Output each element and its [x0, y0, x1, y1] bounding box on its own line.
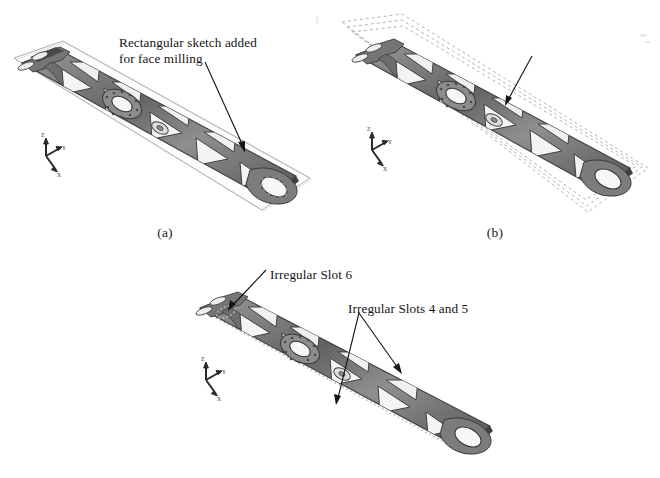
svg-text:X: X — [217, 396, 221, 402]
svg-text:Y: Y — [62, 145, 66, 151]
panel-caption-a: (a) — [0, 225, 330, 241]
coordinate-triad-b: Z Y X — [367, 126, 392, 172]
bracket-body-b — [351, 39, 633, 196]
coordinate-triad-a: Z Y X — [41, 132, 66, 178]
panel-b-drawing: Z Y X — [330, 0, 660, 250]
svg-text:Y: Y — [388, 139, 392, 145]
svg-text:X: X — [57, 172, 61, 178]
scan-speck — [316, 16, 319, 24]
panel-b: Z Y X (b) Perimeter-Open Pocket — [330, 0, 660, 250]
callout-irregular-slots-4-and-5: Irregular Slots 4 and 5 — [348, 301, 468, 317]
panel-c-drawing: Z Y X — [160, 250, 530, 478]
callout-irregular-slot-6: Irregular Slot 6 — [270, 267, 352, 283]
svg-text:Z: Z — [201, 356, 205, 362]
svg-text:Y: Y — [222, 369, 226, 375]
bracket-body — [17, 47, 299, 204]
svg-text:Z: Z — [41, 132, 45, 138]
figure-root: Z Y X (a) Rectangular sketch added for f… — [0, 0, 660, 478]
scan-speck — [640, 34, 647, 37]
svg-text:X: X — [383, 166, 387, 172]
panel-caption-b: (b) — [330, 225, 660, 241]
callout-rectangular-sketch: Rectangular sketch added for face millin… — [119, 35, 257, 66]
coordinate-triad-c: Z Y X — [201, 356, 226, 402]
svg-text:Z: Z — [367, 126, 371, 132]
panel-c: Z Y X (c) — [160, 250, 530, 478]
panel-a: Z Y X (a) Rectangular sketch added for f… — [0, 0, 330, 250]
scan-speck — [645, 41, 650, 43]
